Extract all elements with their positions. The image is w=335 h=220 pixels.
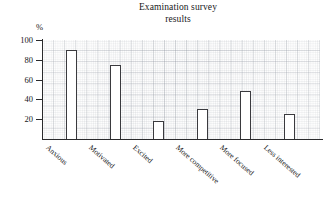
bar-excited <box>153 121 164 139</box>
chart-title: Examination survey results <box>88 2 268 25</box>
bar-anxious <box>66 50 77 139</box>
category-label-excited: Excited <box>131 143 154 165</box>
y-tick-mark <box>36 40 43 41</box>
y-tick-label: 60 <box>8 74 33 84</box>
y-tick-mark <box>36 99 43 100</box>
examination-survey-bar-chart: Examination survey results % 20406080100… <box>0 0 335 220</box>
bar-motivated <box>110 65 121 139</box>
y-tick-label: 20 <box>8 114 33 124</box>
chart-title-line-2: results <box>88 14 268 26</box>
category-label-less-interested: Less interested <box>262 143 302 180</box>
category-label-more-focused: More focused <box>218 143 256 177</box>
bar-less-interested <box>284 114 295 139</box>
y-tick-mark <box>36 119 43 120</box>
y-tick-mark <box>36 60 43 61</box>
plot-area <box>42 40 320 139</box>
y-tick-label: 100 <box>8 35 33 45</box>
category-label-anxious: Anxious <box>44 143 69 167</box>
y-tick-label: 80 <box>8 54 33 64</box>
y-tick-label: 40 <box>8 94 33 104</box>
y-axis-unit-label: % <box>36 22 43 32</box>
x-axis-line <box>42 139 323 140</box>
y-axis-line <box>42 39 43 140</box>
y-tick-mark <box>36 80 43 81</box>
category-label-more-competitive: More competitive <box>174 143 221 185</box>
bar-more-competitive <box>197 109 208 139</box>
bar-more-focused <box>240 91 251 139</box>
chart-title-line-1: Examination survey <box>88 2 268 14</box>
category-label-motivated: Motivated <box>87 143 116 170</box>
